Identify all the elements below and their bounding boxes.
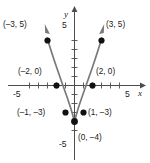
point-label-3-5: (3, 5) (106, 21, 125, 29)
point-neg1-neg3 (62, 109, 68, 115)
y-tick-label-5: 5 (62, 21, 67, 30)
point-0-neg4 (71, 118, 78, 125)
point-3-5 (98, 37, 104, 43)
y-tick-label-neg5: -5 (59, 140, 67, 149)
point-neg3-5 (44, 37, 50, 43)
point-label-neg2-0: (–2, 0) (18, 68, 42, 76)
point-label-neg1-neg3: (–1, –3) (17, 109, 45, 117)
y-axis-label: y (64, 10, 68, 19)
x-axis (8, 83, 146, 89)
point-neg2-0 (53, 82, 59, 88)
x-axis-label: x (138, 89, 142, 98)
point-2-0 (89, 82, 95, 88)
x-tick-label-neg5: -5 (13, 90, 21, 99)
x-tick-label-5: 5 (125, 90, 130, 99)
point-label-0-neg4: (0, –4) (78, 134, 102, 142)
point-label-neg3-5: (–3, 5) (3, 21, 27, 29)
point-1-neg3 (80, 109, 86, 115)
point-label-1-neg3: (1, –3) (88, 109, 112, 117)
y-axis (72, 6, 78, 160)
point-label-2-0: (2, 0) (96, 68, 115, 76)
graph-figure: y x 5 -5 -5 5 (–3, 5) (3, 5) (–2, 0) (2,… (0, 0, 150, 163)
